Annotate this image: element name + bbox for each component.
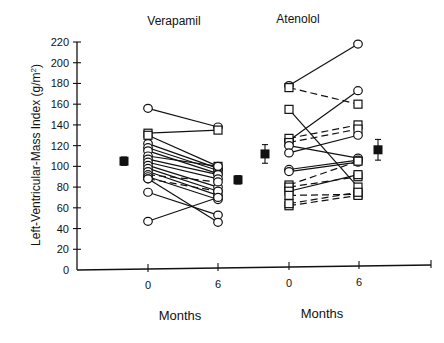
- patient-line: [289, 91, 358, 141]
- patient-line: [289, 192, 358, 203]
- six-month-marker: [354, 171, 362, 179]
- baseline-marker: [285, 84, 293, 92]
- patient-line: [289, 195, 358, 205]
- six-month-marker: [354, 131, 363, 139]
- patient-lines: [148, 44, 358, 222]
- patient-line: [148, 108, 218, 127]
- y-tick-label: 40: [57, 223, 69, 235]
- x-tick-label: 6: [215, 278, 221, 290]
- x-axis: 0606: [77, 260, 431, 291]
- y-axis-title-close: ): [29, 64, 43, 68]
- y-tick-label: 180: [51, 77, 69, 89]
- patient-line: [289, 135, 358, 153]
- y-tick-label: 140: [51, 119, 69, 131]
- baseline-marker: [285, 200, 293, 208]
- x-tick-label: 0: [286, 277, 292, 289]
- six-month-marker: [214, 218, 223, 226]
- y-tick-label: 80: [57, 181, 69, 193]
- patient-line: [289, 44, 358, 85]
- patient-line: [289, 88, 358, 105]
- patient-markers: [144, 40, 363, 226]
- six-month-marker: [354, 157, 362, 165]
- panel-title-verapamil: Verapamil: [147, 14, 200, 28]
- patient-line: [289, 109, 358, 187]
- y-tick-label: 160: [51, 98, 69, 110]
- baseline-marker: [285, 168, 294, 176]
- patient-line: [148, 130, 218, 133]
- y-axis: 020406080100120140160180200220: [51, 36, 81, 276]
- baseline-marker: [144, 217, 153, 225]
- panel-title-atenolol: Atenolol: [276, 12, 319, 26]
- y-tick-label: 0: [63, 264, 69, 276]
- mean-marker: [261, 149, 270, 158]
- y-tick-label: 60: [57, 202, 69, 214]
- y-tick-label: 200: [51, 57, 69, 69]
- patient-line: [289, 162, 358, 171]
- patient-line: [289, 160, 358, 169]
- y-tick-label: 100: [51, 160, 69, 172]
- svg-text:Left-Ventricular-Mass Index (g: Left-Ventricular-Mass Index (g/m2): [29, 64, 43, 246]
- x-tick-label: 0: [145, 279, 151, 291]
- baseline-marker: [144, 131, 152, 139]
- six-month-marker: [354, 40, 363, 48]
- mean-marker: [120, 157, 129, 166]
- baseline-marker: [285, 105, 293, 113]
- x-axis-line: [77, 265, 431, 270]
- mean-marker: [234, 175, 243, 184]
- six-month-marker: [214, 162, 223, 170]
- patient-line: [289, 177, 358, 187]
- y-axis-title-text: Left-Ventricular-Mass Index (g/m: [29, 73, 43, 246]
- baseline-marker: [285, 191, 293, 199]
- six-month-marker: [214, 193, 223, 201]
- six-month-marker: [214, 178, 223, 186]
- baseline-marker: [144, 188, 153, 196]
- lv-mass-chart: Verapamil Atenolol Left-Ventricular-Mass…: [0, 0, 444, 343]
- six-month-marker: [354, 188, 362, 196]
- y-tick-label: 20: [57, 243, 69, 255]
- six-month-marker: [354, 100, 362, 108]
- six-month-marker: [354, 87, 363, 95]
- x-axis-title-atenolol: Months: [301, 306, 344, 321]
- six-month-marker: [214, 126, 222, 134]
- y-tick-label: 220: [51, 36, 69, 48]
- patient-line: [289, 175, 358, 192]
- y-tick-label: 120: [51, 140, 69, 152]
- x-axis-title-verapamil: Months: [159, 308, 202, 323]
- y-axis-title: Left-Ventricular-Mass Index (g/m2): [29, 64, 43, 246]
- mean-marker: [374, 145, 383, 154]
- baseline-marker: [144, 104, 153, 112]
- baseline-marker: [144, 175, 153, 183]
- x-tick-label: 6: [356, 276, 362, 288]
- baseline-marker: [285, 149, 294, 157]
